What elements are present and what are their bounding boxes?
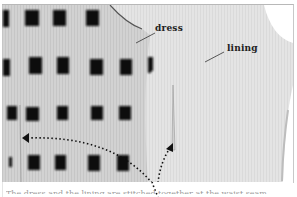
- photo-frame: dress lining: [2, 4, 294, 183]
- figure-caption: The dress and the lining are stitched to…: [6, 190, 286, 194]
- label-dress: dress: [155, 23, 183, 33]
- caption-text: The dress and the lining are stitched to…: [6, 190, 286, 194]
- dress-fabric-photo: [2, 5, 293, 183]
- label-lining: lining: [227, 43, 258, 53]
